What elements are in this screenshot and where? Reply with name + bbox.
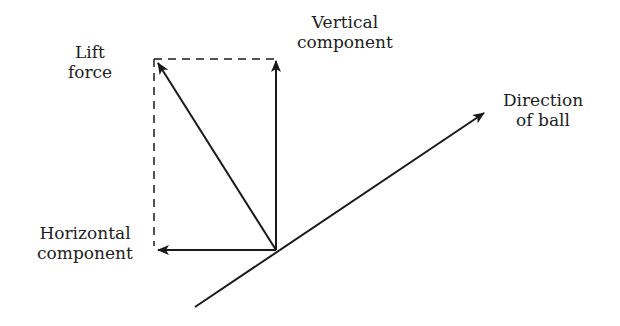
vertical-label-line2: component <box>290 32 400 52</box>
lift-force-label: Lift force <box>52 42 128 82</box>
lift-label-line1: Lift <box>52 42 128 62</box>
lift-label-line2: force <box>52 62 128 82</box>
lift-force-arrow <box>158 63 276 250</box>
horizontal-component-label: Horizontal component <box>20 223 150 263</box>
ball-direction-arrow <box>195 113 484 307</box>
lift-force-diagram: Lift force Vertical component Horizontal… <box>0 0 620 326</box>
direction-label-line2: of ball <box>488 110 598 130</box>
direction-of-ball-label: Direction of ball <box>488 90 598 130</box>
direction-label-line1: Direction <box>488 90 598 110</box>
horizontal-label-line1: Horizontal <box>20 223 150 243</box>
horizontal-label-line2: component <box>20 243 150 263</box>
vertical-component-label: Vertical component <box>290 12 400 52</box>
vertical-label-line1: Vertical <box>290 12 400 32</box>
